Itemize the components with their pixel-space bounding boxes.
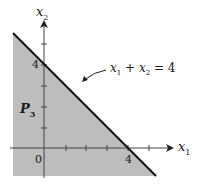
diagram-canvas <box>0 0 202 186</box>
line-equation-label: x1 + x2 = 4 <box>110 61 176 77</box>
pointer-arrow-icon <box>82 76 88 82</box>
x-axis-label: x1 <box>178 139 190 157</box>
y-axis-label: x2 <box>36 4 48 22</box>
x-tick-4-label: 4 <box>125 153 132 166</box>
origin-label: 0 <box>35 153 42 166</box>
y-tick-4-label: 4 <box>32 58 39 71</box>
region-label: P3 <box>20 101 35 119</box>
label-pointer <box>84 70 106 80</box>
